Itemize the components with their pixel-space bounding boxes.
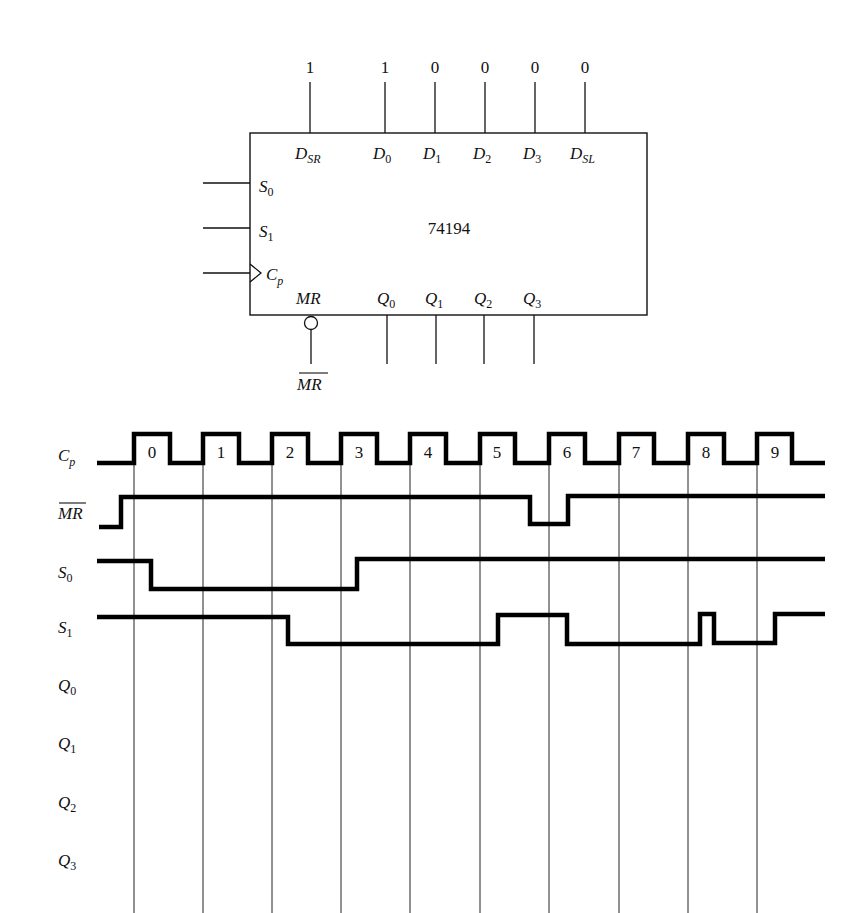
left-input-pins: S0 S1 Cp (203, 177, 283, 288)
dsr-value: 1 (306, 58, 315, 77)
d0-value: 1 (381, 58, 390, 77)
pin-label-dsr: DSR (294, 144, 321, 166)
pulse-label-8: 8 (702, 443, 711, 462)
pulse-label-4: 4 (424, 443, 433, 462)
pin-label-q1: Q1 (425, 289, 443, 311)
pin-label-q3: Q3 (523, 289, 541, 311)
clock-edge-triangle-icon (250, 264, 261, 282)
signal-label-s1: S1 (58, 618, 73, 640)
pulse-label-0: 0 (148, 443, 157, 462)
pin-label-d0: D0 (372, 144, 391, 166)
d3-value: 0 (531, 58, 540, 77)
waveform-s1 (97, 614, 825, 644)
inversion-bubble-icon (305, 317, 318, 330)
pulse-label-6: 6 (563, 443, 572, 462)
pin-label-d1: D1 (422, 144, 441, 166)
pulse-label-7: 7 (632, 443, 641, 462)
pulse-label-1: 1 (217, 443, 226, 462)
waveform-s0 (97, 559, 825, 589)
pin-label-s1: S1 (259, 222, 274, 244)
pin-label-d3: D3 (522, 144, 541, 166)
signal-label-s0: S0 (58, 563, 73, 585)
signal-label-q3: Q3 (58, 851, 76, 873)
signal-label-q2: Q2 (58, 793, 76, 815)
pulse-label-5: 5 (493, 443, 502, 462)
waveform-cp (97, 434, 825, 463)
pin-label-d2: D2 (472, 144, 491, 166)
pin-label-dsl: DSL (569, 144, 595, 166)
timing-diagram: Cp MR S0 S1 Q0 Q1 Q2 Q3 0 (57, 434, 825, 913)
top-input-pins: 1 1 0 0 0 0 DSR D0 D1 D2 D3 DSL (294, 58, 595, 166)
pin-label-s0: S0 (259, 177, 274, 199)
waveform-mr-bar (99, 496, 825, 527)
pulse-label-3: 3 (355, 443, 364, 462)
diagram-canvas: 1 1 0 0 0 0 DSR D0 D1 D2 D3 DSL S0 S1 Cp… (0, 0, 859, 913)
pin-label-q2: Q2 (474, 289, 492, 311)
d1-value: 0 (431, 58, 440, 77)
pulse-label-9: 9 (771, 443, 780, 462)
dsl-value: 0 (581, 58, 590, 77)
signal-label-cp: Cp (58, 446, 75, 469)
clock-pulse-labels: 0 1 2 3 4 5 6 7 8 9 (148, 443, 780, 462)
signal-labels: Cp MR S0 S1 Q0 Q1 Q2 Q3 (57, 446, 86, 873)
part-number-label: 74194 (428, 219, 471, 238)
d2-value: 0 (481, 58, 490, 77)
clock-edge-gridlines (134, 434, 757, 913)
signal-label-mr-bar: MR (57, 504, 83, 523)
ic-74194-block: 1 1 0 0 0 0 DSR D0 D1 D2 D3 DSL S0 S1 Cp… (203, 58, 647, 394)
pin-label-mr: MR (295, 289, 321, 308)
pin-label-q0: Q0 (377, 289, 395, 311)
signal-label-q1: Q1 (58, 734, 76, 756)
pin-label-cp: Cp (266, 265, 283, 288)
pulse-label-2: 2 (286, 443, 295, 462)
mr-bar-external-label: MR (296, 375, 322, 394)
signal-label-q0: Q0 (58, 676, 76, 698)
bottom-pins: MR MR Q0 Q1 Q2 Q3 (295, 289, 541, 394)
